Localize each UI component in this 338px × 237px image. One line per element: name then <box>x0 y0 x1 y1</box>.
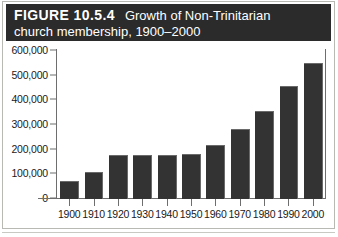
x-axis-tick-mark <box>191 199 192 206</box>
caption-line-one: FIGURE 10.5.4Growth of Non-Trinitarian <box>14 7 323 24</box>
bar <box>255 111 274 199</box>
bar <box>133 155 152 199</box>
x-axis-tick-mark <box>215 199 216 206</box>
y-axis-tick-label: 600,000 <box>11 44 48 56</box>
figure-number: FIGURE 10.5.4 <box>14 7 115 23</box>
x-axis-tick-mark <box>118 199 119 206</box>
figure-caption-band: FIGURE 10.5.4Growth of Non-Trinitarian c… <box>6 4 331 41</box>
x-axis-tick-mark <box>313 199 314 206</box>
y-axis-tick-label: 400,000 <box>11 93 48 105</box>
x-axis-tick-mark <box>94 199 95 206</box>
x-axis-tick-mark <box>240 199 241 206</box>
x-axis-tick-label: 1930 <box>131 208 154 220</box>
x-axis-tick-label: 1970 <box>228 208 251 220</box>
y-axis-tick-mark <box>50 173 57 174</box>
bar <box>60 181 79 199</box>
x-axis-tick-label: 1990 <box>277 208 300 220</box>
bar <box>231 129 250 199</box>
bar <box>158 155 177 199</box>
bar <box>85 172 104 199</box>
figure-title-part-one: Growth of Non-Trinitarian <box>125 8 270 23</box>
y-axis-tick-label: 500,000 <box>11 69 48 81</box>
x-axis-tick-mark <box>142 199 143 206</box>
x-axis-tick-mark <box>69 199 70 206</box>
plot-right-border <box>325 49 326 199</box>
x-axis-tick-mark <box>264 199 265 206</box>
figure-title-part-two: church membership, 1900–2000 <box>14 24 323 40</box>
x-axis-tick-label: 1920 <box>107 208 130 220</box>
x-axis-tick-label: 1980 <box>253 208 276 220</box>
bar <box>304 63 323 199</box>
x-axis-tick-label: 2000 <box>302 208 325 220</box>
y-axis-labels: 0100,000200,000300,000400,000500,000600,… <box>6 44 53 227</box>
y-axis-tick-mark <box>50 50 57 51</box>
x-axis-tick-mark <box>288 199 289 206</box>
figure-container: FIGURE 10.5.4Growth of Non-Trinitarian c… <box>0 0 338 237</box>
x-axis-tick-label: 1960 <box>204 208 227 220</box>
bar <box>109 155 128 199</box>
x-axis-tick-mark <box>167 199 168 206</box>
y-axis-tick-mark <box>50 99 57 100</box>
y-axis-tick-mark <box>50 148 57 149</box>
x-axis-tick-label: 1900 <box>58 208 81 220</box>
y-axis-tick-label: 200,000 <box>11 143 48 155</box>
figure-bottom-rule <box>2 232 335 233</box>
x-axis-tick-label: 1940 <box>155 208 178 220</box>
bar <box>206 145 225 199</box>
y-axis-tick-label: 300,000 <box>11 118 48 130</box>
bar <box>182 154 201 199</box>
chart-plot-area: 0100,000200,000300,000400,000500,000600,… <box>6 44 331 227</box>
x-axis-tick-label: 1910 <box>82 208 105 220</box>
x-axis-tick-label: 1950 <box>180 208 203 220</box>
y-axis-tick-mark <box>50 124 57 125</box>
bar <box>280 86 299 199</box>
y-axis-tick-mark <box>50 198 57 199</box>
y-axis-tick-label: 100,000 <box>11 167 48 179</box>
y-axis-tick-mark <box>50 74 57 75</box>
